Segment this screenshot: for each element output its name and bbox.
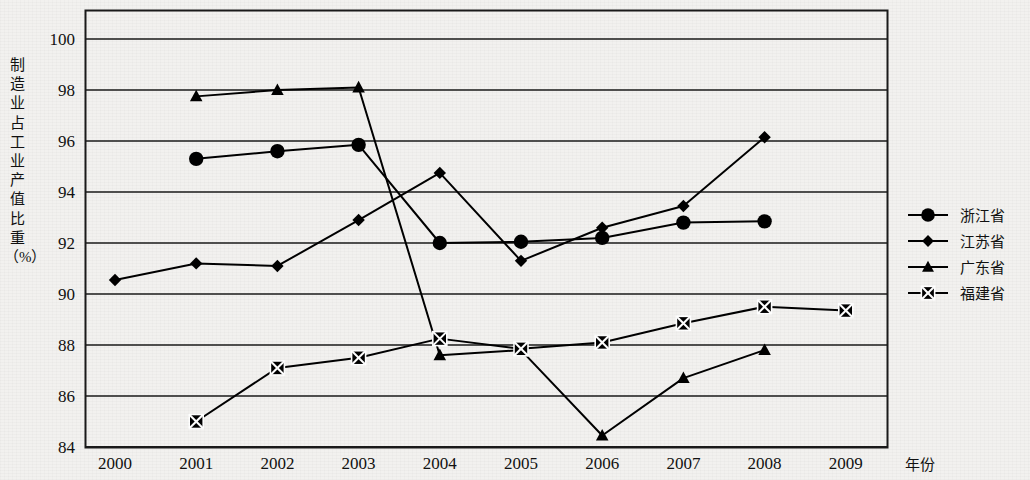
x-axis-tick-label: 2005 [504, 454, 538, 473]
series-line [196, 87, 764, 435]
y-axis-title-char: 业 [4, 152, 30, 171]
y-axis-tick-label: 94 [58, 183, 76, 202]
legend-item-2[interactable]: 广东省 [908, 259, 1005, 277]
y-axis-title-char: 比 [4, 210, 30, 229]
data-point-marker-circle [189, 152, 203, 166]
y-axis-title-char: 造 [4, 75, 30, 94]
y-axis-title-char: 制 [4, 56, 30, 75]
y-axis-title-char: 业 [4, 94, 30, 113]
x-axis-tick-label: 2009 [829, 454, 863, 473]
y-axis-tick-label: 86 [58, 387, 75, 406]
legend-label: 广东省 [960, 259, 1005, 277]
y-axis-title-char: 占 [4, 114, 30, 133]
y-axis-title-char: 重 [4, 229, 30, 248]
y-axis-title-char: 工 [4, 133, 30, 152]
data-point-marker-crossed-square [676, 316, 690, 330]
data-point-marker-diamond [596, 222, 608, 234]
data-point-marker-circle [757, 214, 771, 228]
y-axis-tick-label: 96 [58, 132, 75, 151]
data-point-marker-circle [270, 144, 284, 158]
y-axis-tick-label: 98 [58, 81, 75, 100]
data-point-marker-circle [351, 138, 365, 152]
legend-label: 福建省 [960, 285, 1005, 303]
legend-item-0[interactable]: 浙江省 [908, 207, 1005, 225]
y-axis-tick-label: 88 [58, 336, 75, 355]
data-point-marker-diamond [352, 214, 364, 226]
y-axis-title-char: 产 [4, 171, 30, 190]
x-axis-tick-labels: 2000200120022003200420052006200720082009 [98, 454, 863, 473]
x-axis-tick-label: 2003 [342, 454, 376, 473]
data-series-group [109, 81, 853, 441]
x-axis-tick-label: 2004 [423, 454, 458, 473]
legend: 浙江省江苏省广东省福建省 [908, 207, 1005, 303]
legend-item-1[interactable]: 江苏省 [908, 233, 1005, 251]
y-axis-tick-label: 90 [58, 285, 75, 304]
data-point-marker-crossed-square [758, 300, 772, 314]
x-axis-tick-label: 2000 [98, 454, 132, 473]
series-line [196, 307, 846, 422]
series-3 [189, 300, 853, 429]
data-point-marker-circle [676, 215, 690, 229]
y-axis-tick-label: 100 [50, 30, 76, 49]
data-point-marker-diamond [271, 260, 283, 272]
data-point-marker-crossed-square [352, 351, 366, 365]
data-point-marker-circle [433, 236, 447, 250]
y-axis-title-char: 值 [4, 190, 30, 209]
x-axis-title: 年份 [905, 456, 935, 474]
x-axis-tick-label: 2007 [666, 454, 701, 473]
line-chart-figure: 制造业占工业产值比重（%） 8486889092949698100 200020… [0, 0, 1030, 480]
data-point-marker-crossed-square [270, 361, 284, 375]
series-line [115, 137, 765, 280]
y-axis-title-char: （%） [4, 248, 30, 267]
y-axis-tick-label: 92 [58, 234, 75, 253]
chart-canvas: 8486889092949698100 20002001200220032004… [0, 0, 1030, 480]
series-0 [189, 138, 772, 251]
x-axis-tick-label: 2008 [748, 454, 782, 473]
data-point-marker-diamond [109, 274, 121, 286]
legend-label: 浙江省 [960, 207, 1005, 225]
data-point-marker-circle [514, 235, 528, 249]
data-point-marker-crossed-square [595, 335, 609, 349]
legend-item-3[interactable]: 福建省 [908, 285, 1005, 303]
x-axis-tick-label: 2006 [585, 454, 619, 473]
series-1 [109, 131, 771, 286]
y-axis-title: 制造业占工业产值比重（%） [4, 56, 30, 267]
data-point-marker-circle [921, 208, 935, 222]
y-axis-tick-labels: 8486889092949698100 [50, 30, 76, 457]
data-point-marker-diamond [190, 257, 202, 269]
data-point-marker-diamond [922, 235, 934, 247]
legend-label: 江苏省 [960, 233, 1005, 251]
data-point-marker-crossed-square [839, 304, 853, 318]
x-axis-tick-label: 2001 [179, 454, 213, 473]
x-axis-tick-label: 2002 [260, 454, 294, 473]
data-point-marker-crossed-square [433, 332, 447, 346]
data-point-marker-crossed-square [189, 415, 203, 429]
data-point-marker-crossed-square [921, 286, 934, 299]
plot-area-border [86, 11, 888, 448]
y-axis-tick-label: 84 [58, 438, 76, 457]
data-point-marker-crossed-square [514, 342, 528, 356]
